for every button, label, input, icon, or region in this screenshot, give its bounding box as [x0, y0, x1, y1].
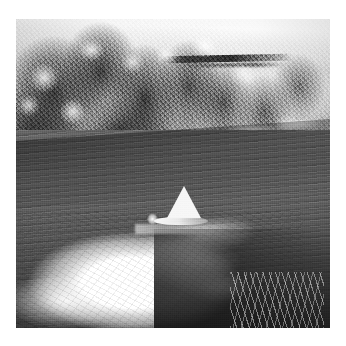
grass-tufts: [230, 272, 324, 328]
triangular-sail: [167, 186, 201, 218]
photo-page: [0, 0, 346, 346]
boat-wake: [135, 224, 229, 233]
photograph: [16, 19, 330, 328]
